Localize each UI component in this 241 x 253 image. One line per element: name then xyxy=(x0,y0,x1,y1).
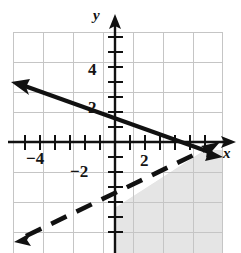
graph-figure: y x 4 2 −4 −2 2 xyxy=(0,0,241,253)
x-tick-label-2: 2 xyxy=(140,152,149,169)
coordinate-plane xyxy=(0,0,241,253)
y-tick-label-4: 4 xyxy=(88,61,97,78)
y-axis-label: y xyxy=(93,8,100,23)
x-tick-label-neg4: −4 xyxy=(26,150,44,167)
x-tick-label-neg2: −2 xyxy=(70,163,88,180)
x-axis-label: x xyxy=(223,146,231,161)
y-tick-label-2: 2 xyxy=(88,99,97,116)
